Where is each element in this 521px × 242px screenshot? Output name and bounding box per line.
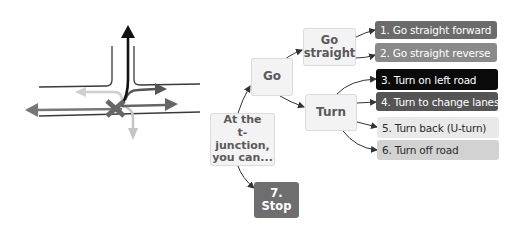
option-turn-back-u-turn: 5. Turn back (U-turn) — [377, 117, 499, 138]
option-turn-to-change-lanes: 4. Turn to change lanes — [376, 92, 498, 111]
root-node: At the t-junction, you can... — [210, 113, 275, 166]
option-go-straight-forward: 1. Go straight forward — [375, 21, 497, 39]
root-line-3: you can... — [211, 152, 274, 165]
stop-node: 7. Stop — [254, 182, 299, 218]
option-6-label: 6. Turn off road — [382, 144, 459, 156]
turn-label: Turn — [316, 106, 346, 120]
option-2-label: 2. Go straight reverse — [380, 47, 490, 59]
root-line-1: At the — [211, 114, 274, 127]
option-3-label: 3. Turn on left road — [381, 74, 476, 86]
root-line-2: t-junction, — [211, 127, 274, 152]
option-turn-on-left-road: 3. Turn on left road — [376, 69, 498, 90]
stop-label: 7. Stop — [254, 187, 299, 213]
option-4-label: 4. Turn to change lanes — [381, 96, 499, 108]
option-turn-off-road: 6. Turn off road — [377, 140, 499, 160]
option-go-straight-reverse: 2. Go straight reverse — [375, 43, 497, 62]
go-label: Go — [263, 70, 281, 84]
option-5-label: 5. Turn back (U-turn) — [382, 122, 486, 134]
go-straight-node: Go straight — [303, 28, 356, 66]
option-1-label: 1. Go straight forward — [380, 24, 491, 36]
go-node: Go — [251, 58, 293, 96]
turn-node: Turn — [305, 94, 357, 131]
go-straight-line-2: straight — [304, 47, 356, 60]
